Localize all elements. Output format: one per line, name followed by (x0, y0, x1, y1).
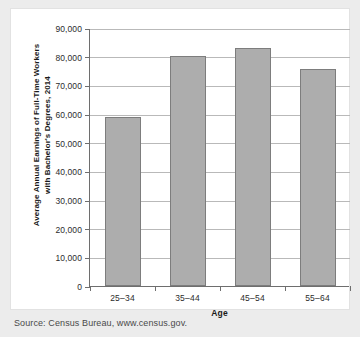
x-axis-tick (285, 286, 286, 291)
source-caption: Source: Census Bureau, www.census.gov. (14, 318, 187, 328)
gridline (90, 29, 350, 30)
y-axis-tick (85, 201, 90, 202)
y-axis-tick (85, 86, 90, 87)
gridline (90, 57, 350, 58)
y-axis-tick (85, 258, 90, 259)
y-axis-title: Average Annual Earnings of Full-Time Wor… (26, 10, 58, 260)
y-axis-tick (85, 172, 90, 173)
x-axis-tick-label: 35–44 (175, 293, 200, 303)
x-axis-tick (90, 286, 91, 291)
y-axis-tick-label: 70,000 (55, 81, 82, 91)
bar (235, 48, 271, 287)
y-axis-title-line-1: Average Annual Earnings of Full-Time Wor… (31, 44, 42, 227)
bar (105, 117, 141, 286)
y-axis-tick-label: 20,000 (55, 225, 82, 235)
y-axis-tick (85, 57, 90, 58)
bar (170, 56, 206, 286)
figure-container: Average Annual Earnings of Full-Time Wor… (0, 0, 360, 337)
y-axis-tick-label: 40,000 (55, 167, 82, 177)
y-axis-tick-label: 50,000 (55, 139, 82, 149)
x-axis-tick-label: 25–34 (110, 293, 135, 303)
y-axis-tick (85, 143, 90, 144)
y-axis-tick (85, 115, 90, 116)
y-axis-tick-label: 90,000 (55, 24, 82, 34)
x-axis-tick (220, 286, 221, 291)
y-axis-tick-label: 10,000 (55, 253, 82, 263)
x-axis-tick (350, 286, 351, 291)
x-axis-tick-label: 55–64 (305, 293, 330, 303)
bar (300, 69, 336, 286)
plot-area: Age 010,00020,00030,00040,00050,00060,00… (89, 29, 349, 287)
x-axis-tick-label: 45–54 (240, 293, 265, 303)
y-axis-tick (85, 229, 90, 230)
y-axis-tick-label: 0 (77, 282, 82, 292)
y-axis-title-line-2: with Bachelor's Degrees, 2014 (42, 44, 53, 227)
y-axis-tick (85, 29, 90, 30)
chart-card: Average Annual Earnings of Full-Time Wor… (10, 8, 350, 310)
x-axis-tick (155, 286, 156, 291)
x-axis-title: Age (211, 308, 228, 318)
y-axis-tick-label: 30,000 (55, 196, 82, 206)
y-axis-tick-label: 60,000 (55, 110, 82, 120)
y-axis-tick-label: 80,000 (55, 53, 82, 63)
